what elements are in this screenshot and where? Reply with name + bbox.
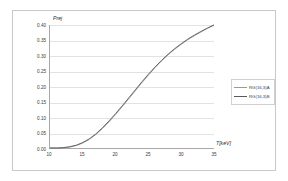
x-tick-label: 25 xyxy=(136,152,160,157)
legend-label: RG(16,3)A xyxy=(249,85,270,90)
x-tick-label: 35 xyxy=(202,152,226,157)
y-tick-label: 0.40 xyxy=(16,23,46,28)
legend-item[interactable]: RG(16,3)A xyxy=(234,83,272,92)
y-tick-label: 0.25 xyxy=(16,69,46,74)
x-tick-label: 10 xyxy=(37,152,61,157)
y-tick-label: 0.30 xyxy=(16,54,46,59)
legend-label: RG(16,3)B xyxy=(249,94,270,99)
y-tick-label: 0.05 xyxy=(16,131,46,136)
chart-figure: Prej 0.000.050.100.150.200.250.300.350.4… xyxy=(12,10,276,171)
series-line xyxy=(50,25,214,148)
series-line xyxy=(50,25,214,148)
series-curves xyxy=(50,25,214,148)
y-tick-label: 0.20 xyxy=(16,85,46,90)
y-tick-label: 0.10 xyxy=(16,116,46,121)
y-tick-label: 0.35 xyxy=(16,38,46,43)
x-tick-label: 20 xyxy=(103,152,127,157)
legend-swatch-icon xyxy=(234,87,247,88)
legend-swatch-icon xyxy=(234,96,247,97)
y-axis-tick-labels: 0.000.050.100.150.200.250.300.350.40 xyxy=(13,25,46,149)
plot-area xyxy=(49,25,214,149)
y-tick-label: 0.00 xyxy=(16,147,46,152)
x-axis-title: T[keV] xyxy=(216,140,231,146)
legend: RG(16,3)ARG(16,3)B xyxy=(231,79,275,105)
y-axis-title: Prej xyxy=(53,15,62,21)
x-tick-label: 15 xyxy=(70,152,94,157)
x-axis-tick-labels: 101520253035 xyxy=(49,152,214,160)
legend-item[interactable]: RG(16,3)B xyxy=(234,92,272,101)
y-tick-label: 0.15 xyxy=(16,100,46,105)
x-tick-label: 30 xyxy=(169,152,193,157)
